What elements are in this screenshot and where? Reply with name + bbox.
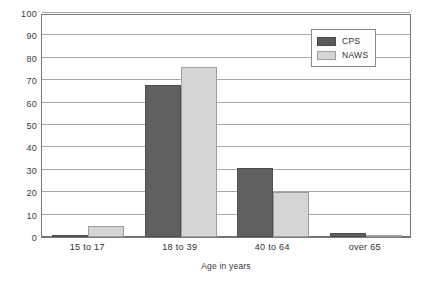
x-axis-title: Age in years (41, 261, 411, 271)
y-tick-label-100: 100 (3, 9, 37, 19)
gridline-100 (42, 12, 410, 13)
y-tick-label-30: 30 (3, 166, 37, 176)
y-tick-label-20: 20 (3, 188, 37, 198)
x-tick-label: 40 to 64 (255, 242, 290, 252)
bar-group (145, 15, 217, 237)
y-tick-label-80: 80 (3, 54, 37, 64)
legend-item-cps: CPS (317, 34, 370, 48)
y-tick-label-0: 0 (3, 233, 37, 243)
bar-cps (145, 85, 181, 237)
y-tick-label-50: 50 (3, 121, 37, 131)
bar-cps (52, 235, 88, 237)
bar-group (52, 15, 124, 237)
bar-cps (237, 168, 273, 237)
y-axis: 0102030405060708090100 (0, 14, 37, 238)
y-tick-label-40: 40 (3, 143, 37, 153)
legend-label-cps: CPS (342, 36, 360, 46)
bar-cps (330, 233, 366, 237)
legend-swatch-cps-icon (317, 37, 336, 46)
y-tick-label-90: 90 (3, 31, 37, 41)
bar-naws (366, 235, 402, 237)
x-tick-label: 18 to 39 (162, 242, 197, 252)
legend-label-naws: NAWS (342, 50, 368, 60)
bar-chart: 0102030405060708090100 15 to 1718 to 394… (0, 0, 422, 285)
bar-naws (273, 192, 309, 237)
bar-naws (181, 67, 217, 237)
x-axis-tick-labels: 15 to 1718 to 3940 to 64over 65 (41, 242, 411, 256)
y-tick-label-10: 10 (3, 211, 37, 221)
legend-swatch-naws-icon (317, 51, 336, 60)
x-tick-label: 15 to 17 (70, 242, 105, 252)
y-tick-label-60: 60 (3, 99, 37, 109)
bar-naws (88, 226, 124, 237)
legend-item-naws: NAWS (317, 48, 370, 62)
bar-group (237, 15, 309, 237)
chart-legend: CPS NAWS (311, 29, 376, 67)
x-tick-label: over 65 (349, 242, 381, 252)
y-tick-label-70: 70 (3, 76, 37, 86)
